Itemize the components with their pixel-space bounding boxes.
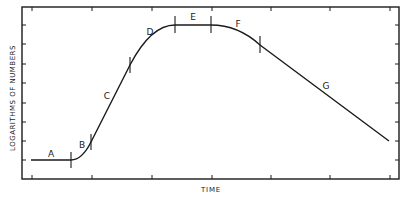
phase-label-a: A [48,149,55,159]
growth-curve-diagram: A B C D E F G TIME LOGARITHMS OF NUMBERS [0,0,406,198]
phase-label-f: F [235,19,240,29]
phase-dividers [71,16,260,168]
phase-label-c: C [104,91,110,101]
x-axis-label: TIME [200,186,221,194]
phase-label-e: E [190,12,196,22]
y-axis-label: LOGARITHMS OF NUMBERS [9,45,17,151]
phase-label-d: D [147,27,154,37]
phase-label-g: G [323,81,330,91]
phase-label-b: B [79,140,85,150]
phase-labels: A B C D E F G [48,12,330,159]
